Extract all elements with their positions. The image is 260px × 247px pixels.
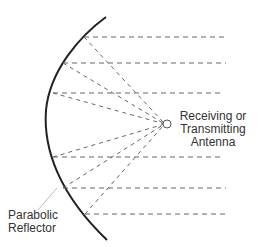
converging-ray [85,126,163,214]
reflector-label: Parabolic Reflector [8,209,70,235]
parabolic-reflector-curve [46,17,107,240]
reflector-leader-line [38,188,57,210]
converging-ray [84,37,163,122]
antenna-label: Receiving or Transmitting Antenna [172,110,254,149]
converging-ray [53,125,163,158]
reflector-label-line-2: Reflector [8,222,70,235]
antenna-label-line-3: Antenna [172,136,254,149]
converging-ray [53,93,163,124]
antenna-focus-icon [163,120,171,128]
